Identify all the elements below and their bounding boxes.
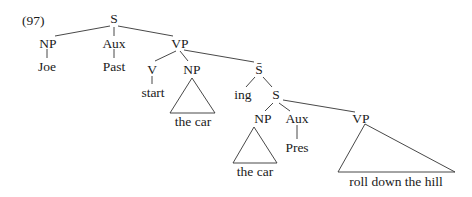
edge-vp-sbar <box>184 50 254 62</box>
node-aux-main: Aux <box>102 36 125 51</box>
leaf-pres: Pres <box>285 140 308 155</box>
edge-sbar-ing <box>246 77 255 87</box>
node-vp-main: VP <box>171 36 188 51</box>
leaf-past: Past <box>103 59 126 74</box>
node-vp-embedded: VP <box>352 111 369 126</box>
edge-s-np <box>55 26 110 36</box>
edge-s-vp <box>118 26 173 36</box>
node-s-root: S <box>110 11 118 26</box>
edge-vp-np <box>180 51 188 61</box>
node-np-object: NP <box>183 62 200 77</box>
leaf-ing: ing <box>234 87 252 102</box>
triangle-np-object <box>170 78 215 113</box>
node-s-bar: S̄ <box>255 62 263 77</box>
edge-sbar-s <box>263 77 272 87</box>
node-aux-embedded: Aux <box>285 111 308 126</box>
leaf-start: start <box>141 85 164 100</box>
edge-s-np-embedded <box>265 103 273 111</box>
triangle-vp-embedded <box>338 124 455 172</box>
node-s-embedded: S <box>272 87 280 102</box>
triangle-np-embedded <box>233 127 277 163</box>
node-np-embedded: NP <box>254 111 271 126</box>
edge-vp-v <box>155 51 176 61</box>
edge-s-aux-embedded <box>279 103 290 111</box>
leaf-joe: Joe <box>38 59 56 74</box>
example-number: (97) <box>22 13 45 28</box>
syntax-tree: (97) S NP Aux VP Joe Past V NP S̄ start … <box>0 0 472 197</box>
leaf-embedded-subject-phrase: the car <box>237 164 274 179</box>
node-np-subject: NP <box>39 36 56 51</box>
leaf-object-phrase: the car <box>175 114 212 129</box>
node-v: V <box>147 62 157 77</box>
leaf-embedded-vp-phrase: roll down the hill <box>349 174 443 189</box>
